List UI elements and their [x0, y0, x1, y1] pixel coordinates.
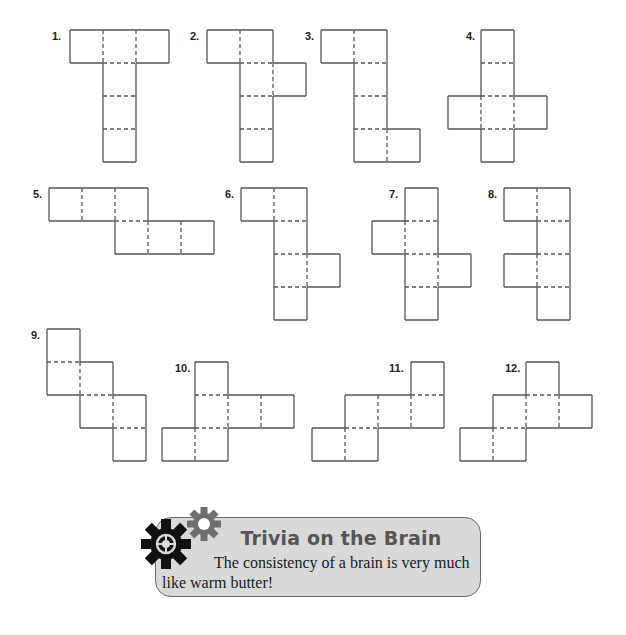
net-label-1: 1. [52, 30, 61, 42]
cube-net-12 [460, 362, 592, 461]
net-label-9: 9. [31, 329, 40, 341]
cube-nets-diagram [0, 0, 626, 480]
cube-net-4 [448, 30, 547, 162]
trivia-text: The consistency of a brain is very much … [162, 553, 480, 593]
cube-net-2 [207, 30, 306, 162]
cube-net-9 [47, 329, 146, 461]
net-label-6: 6. [225, 188, 234, 200]
cube-net-1 [70, 30, 169, 162]
net-label-7: 7. [389, 188, 398, 200]
net-label-5: 5. [33, 188, 42, 200]
net-label-12: 12. [505, 362, 520, 374]
net-label-11: 11. [389, 362, 404, 374]
net-label-10: 10. [175, 362, 190, 374]
net-label-3: 3. [305, 30, 314, 42]
cube-net-8 [504, 188, 570, 320]
trivia-title: Trivia on the Brain [216, 527, 466, 549]
cube-net-10 [162, 362, 294, 461]
net-label-4: 4. [466, 30, 475, 42]
cube-net-6 [241, 188, 340, 320]
net-label-8: 8. [488, 188, 497, 200]
cube-net-3 [321, 30, 420, 162]
net-label-2: 2. [190, 30, 199, 42]
cube-net-5 [49, 188, 214, 254]
cube-net-7 [372, 188, 471, 320]
cube-net-11 [312, 362, 444, 461]
